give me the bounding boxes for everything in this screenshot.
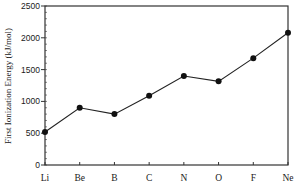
data-point-o [216,78,222,84]
data-point-c [146,93,152,99]
x-tick-label-c: C [146,173,152,183]
data-point-li [42,129,48,135]
data-point-f [250,55,256,61]
x-tick-label-be: Be [74,173,85,183]
y-tick-label: 2500 [21,1,40,11]
y-tick-label: 500 [26,128,40,138]
data-point-ne [285,30,291,36]
y-tick-label: 2000 [21,33,40,43]
series-line [45,33,288,132]
y-axis-label: First Ionization Energy (kJ/mol) [3,28,13,144]
ionization-energy-chart: 05001000150020002500 LiBeBCNOFNe First I… [0,0,296,186]
y-tick-label: 1500 [21,65,40,75]
line-chart-svg: 05001000150020002500 LiBeBCNOFNe First I… [0,0,296,186]
x-tick-label-f: F [251,173,256,183]
x-tick-label-b: B [111,173,117,183]
x-tick-label-li: Li [41,173,50,183]
data-point-b [111,111,117,117]
y-tick-label: 1000 [21,96,40,106]
y-axis: 05001000150020002500 [21,1,47,170]
x-tick-label-ne: Ne [282,173,293,183]
x-tick-label-o: O [215,173,222,183]
data-series [42,30,291,135]
data-point-be [77,105,83,111]
y-tick-label: 0 [35,160,40,170]
x-tick-label-n: N [180,173,187,183]
data-point-n [181,73,187,79]
